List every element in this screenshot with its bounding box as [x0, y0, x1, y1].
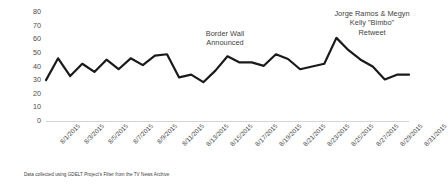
y-tick-label: 60 [1, 36, 41, 43]
x-tick-label: 8/9/2015 [156, 123, 178, 145]
y-tick-label: 40 [1, 63, 41, 70]
annotation-border-wall: Border Wall Announced [186, 29, 264, 48]
annotation-border-wall-line1: Border Wall [186, 29, 264, 38]
y-tick-label: 80 [1, 8, 41, 15]
x-tick-label: 8/15/2015 [230, 123, 255, 148]
x-tick-label: 8/27/2015 [375, 123, 400, 148]
x-tick-label: 8/19/2015 [278, 123, 303, 148]
x-tick-label: 8/3/2015 [83, 123, 105, 145]
y-tick-label: 30 [1, 77, 41, 84]
x-tick-label: 8/7/2015 [132, 123, 154, 145]
x-tick-label: 8/29/2015 [399, 123, 424, 148]
x-tick-label: 8/21/2015 [302, 123, 327, 148]
x-tick-label: 8/31/2015 [423, 123, 448, 148]
y-tick-label: 70 [1, 22, 41, 29]
x-tick-label: 8/17/2015 [254, 123, 279, 148]
y-tick-label: 20 [1, 90, 41, 97]
y-tick-label: 50 [1, 49, 41, 56]
annotation-ramos-kelly-line3: Retweet [322, 28, 422, 37]
y-tick-label: 10 [1, 104, 41, 111]
x-tick-label: 8/5/2015 [108, 123, 130, 145]
source-footnote: Data collected using GDELT Project's Fil… [24, 172, 169, 178]
annotation-ramos-kelly-line2: Kelly "Bimbo" [322, 18, 422, 27]
x-tick-label: 8/13/2015 [206, 123, 231, 148]
annotation-ramos-kelly-line1: Jorge Ramos & Megyn [322, 9, 422, 18]
x-tick-label: 8/1/2015 [59, 123, 81, 145]
y-axis-ticks: 80706050403020100 [0, 12, 41, 121]
y-tick-label: 0 [1, 117, 41, 124]
x-tick-label: 8/11/2015 [181, 123, 205, 147]
x-tick-label: 8/25/2015 [351, 123, 376, 148]
x-tick-label: 8/23/2015 [327, 123, 352, 148]
x-axis-ticks: 8/1/20158/3/20158/5/20158/7/20158/9/2015… [46, 123, 409, 167]
annotation-border-wall-line2: Announced [186, 38, 264, 47]
annotation-ramos-kelly: Jorge Ramos & Megyn Kelly "Bimbo" Retwee… [322, 9, 422, 37]
